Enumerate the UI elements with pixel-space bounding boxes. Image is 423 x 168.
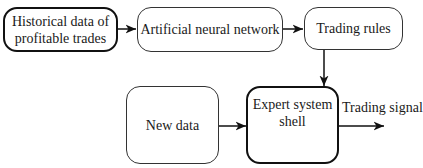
node-new-data-label: New data: [146, 117, 199, 134]
node-ann-label: Artificial neural network: [140, 21, 279, 38]
node-expert-system-shell: Expert system shell: [246, 86, 339, 164]
node-historical-data: Historical data of profitable trades: [3, 7, 118, 52]
node-new-data: New data: [126, 86, 219, 164]
node-trading-rules-label: Trading rules: [316, 20, 391, 37]
node-ess-line2: shell: [253, 113, 333, 130]
node-historical-data-line2: profitable trades: [12, 30, 109, 47]
node-trading-rules: Trading rules: [304, 7, 403, 50]
node-ess-line1: Expert system: [253, 96, 333, 113]
trading-signal-label: Trading signal: [342, 100, 423, 116]
node-artificial-neural-network: Artificial neural network: [137, 7, 283, 52]
node-historical-data-line1: Historical data of: [12, 13, 109, 30]
